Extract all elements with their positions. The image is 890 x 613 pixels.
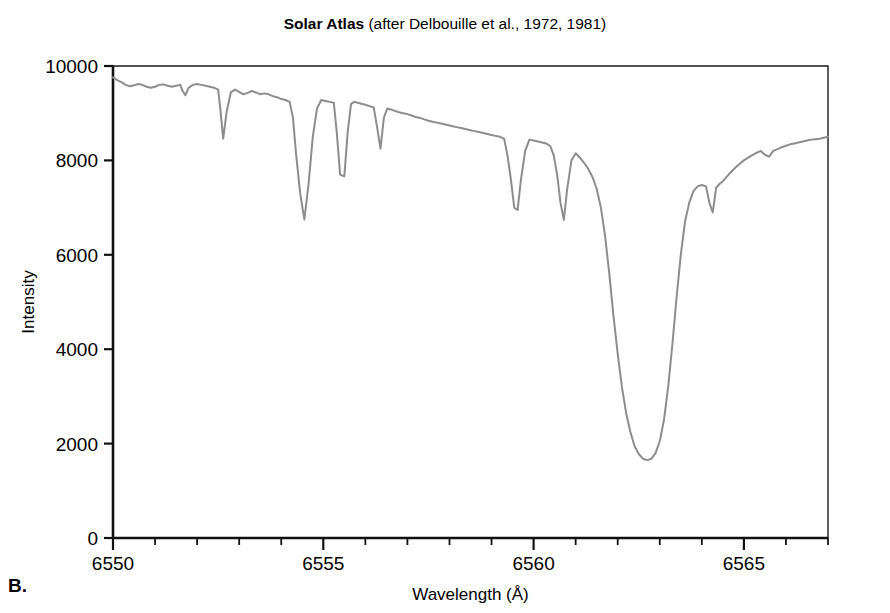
x-tick-label: 6550: [92, 553, 134, 574]
x-tick-label: 6560: [512, 553, 554, 574]
x-axis-tick-labels: 6550655565606565: [92, 553, 765, 574]
x-axis-title: Wavelength (Å): [412, 585, 529, 604]
plot-frame-top-right: [113, 66, 828, 538]
x-axis-ticks: [113, 538, 828, 550]
y-tick-label: 2000: [56, 434, 98, 455]
x-tick-label: 6555: [302, 553, 344, 574]
y-tick-label: 10000: [45, 56, 98, 77]
spectrum-trace-group: [113, 77, 828, 460]
spectrum-trace: [113, 77, 828, 460]
y-tick-label: 8000: [56, 150, 98, 171]
figure-panel-b: Solar Atlas (after Delbouille et al., 19…: [0, 0, 890, 613]
plot-axes: [113, 66, 828, 538]
y-axis-ticks: [104, 66, 113, 538]
y-tick-label: 4000: [56, 339, 98, 360]
x-tick-label: 6565: [723, 553, 765, 574]
y-axis-tick-labels: 0200040006000800010000: [45, 56, 98, 549]
y-tick-label: 6000: [56, 245, 98, 266]
spectrum-plot: 0200040006000800010000 6550655565606565 …: [0, 0, 890, 613]
y-tick-label: 0: [87, 528, 98, 549]
y-axis-title: Intensity: [19, 270, 38, 334]
